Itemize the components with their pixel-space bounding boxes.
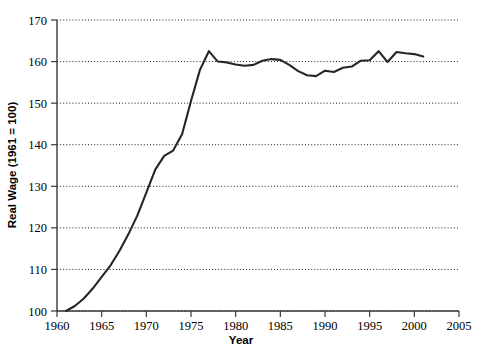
y-tick-label: 100 <box>28 305 47 319</box>
x-tick-label: 1960 <box>45 319 70 333</box>
y-tick-label: 140 <box>28 138 47 152</box>
y-tick-label: 170 <box>28 14 47 28</box>
y-tick-label: 110 <box>29 263 47 277</box>
real-wage-line-chart: 1960196519701975198019851990199520002005… <box>0 0 482 348</box>
y-axis-ticks: 100110120130140150160170 <box>28 14 57 319</box>
x-axis-title: Year <box>229 334 254 346</box>
x-tick-label: 2005 <box>447 319 472 333</box>
x-tick-label: 1995 <box>357 319 382 333</box>
x-tick-label: 1970 <box>134 319 159 333</box>
x-tick-label: 1965 <box>89 319 114 333</box>
x-axis-ticks: 1960196519701975198019851990199520002005 <box>45 311 472 333</box>
y-tick-label: 150 <box>28 97 47 111</box>
x-tick-label: 1990 <box>313 319 338 333</box>
y-axis-title: Real Wage (1961 = 100) <box>6 102 18 229</box>
y-tick-label: 120 <box>28 221 47 235</box>
x-tick-label: 2000 <box>402 319 427 333</box>
data-series <box>66 51 423 311</box>
x-tick-label: 1985 <box>268 319 293 333</box>
y-tick-label: 130 <box>28 180 47 194</box>
x-tick-label: 1980 <box>223 319 248 333</box>
series-line <box>66 51 423 311</box>
x-tick-label: 1975 <box>179 319 204 333</box>
y-tick-label: 160 <box>28 55 47 69</box>
chart-canvas: 1960196519701975198019851990199520002005… <box>0 0 482 348</box>
